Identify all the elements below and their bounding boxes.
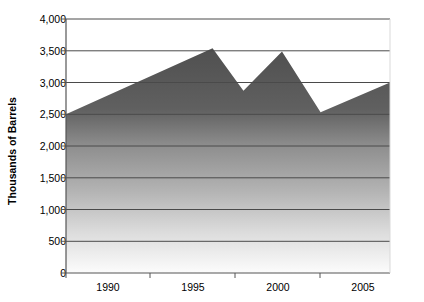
x-tick-label: 2000 xyxy=(248,281,308,293)
y-tick-marks xyxy=(61,19,66,273)
area-chart: Thousands of Barrels 4,000 3,500 3,000 2… xyxy=(0,0,424,302)
x-tick-label: 2005 xyxy=(333,281,393,293)
chart-canvas xyxy=(0,0,424,302)
x-tick-label: 1995 xyxy=(163,281,223,293)
x-tick-label: 1990 xyxy=(78,281,138,293)
x-tick-marks xyxy=(66,273,320,278)
